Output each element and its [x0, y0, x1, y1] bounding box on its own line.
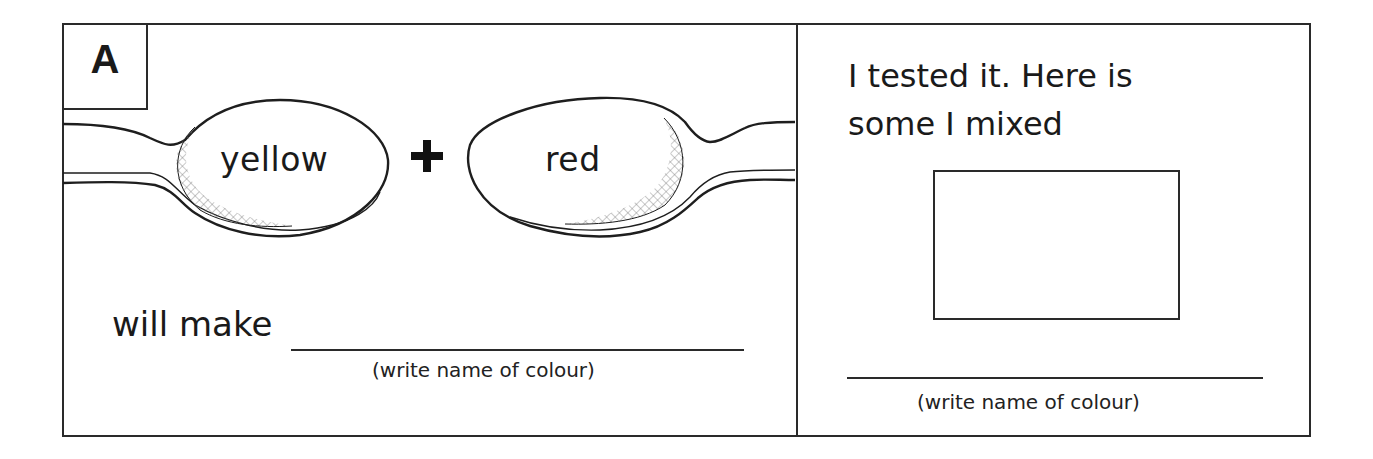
spoon-right-icon	[468, 98, 795, 236]
spoon-left-label: yellow	[220, 140, 328, 179]
spoon-right-label: red	[545, 140, 601, 179]
will-make-label: will make	[112, 304, 272, 344]
plus-icon	[408, 136, 446, 174]
panel-label-box: A	[62, 23, 148, 110]
panel-label: A	[64, 37, 146, 82]
spoons-illustration	[0, 0, 1373, 459]
